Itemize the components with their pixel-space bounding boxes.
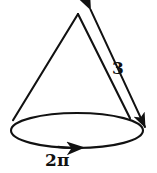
- cone-diagram: 3 2π: [0, 0, 157, 173]
- cone-base-ellipse: [11, 113, 143, 148]
- base-circumference-label: 2π: [45, 152, 70, 169]
- cone-figure-svg: [0, 0, 157, 173]
- base-circumference-direction-arrow: [58, 147, 78, 148]
- slant-height-label: 3: [112, 60, 124, 77]
- cone-left-slant-edge: [13, 14, 78, 120]
